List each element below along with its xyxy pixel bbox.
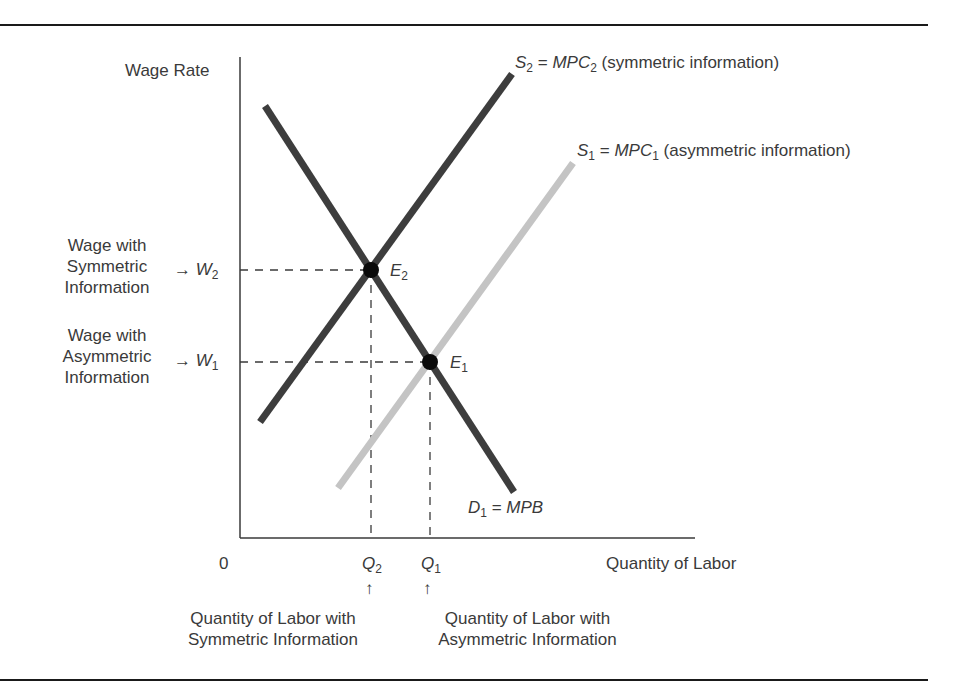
- origin-label: 0: [219, 553, 228, 574]
- qty-asymmetric-annotation: Quantity of Labor with Asymmetric Inform…: [410, 608, 645, 650]
- wage-symmetric-annotation: Wage with Symmetric Information: [52, 235, 162, 298]
- e2-point: [363, 262, 379, 278]
- e1-label: E1: [450, 352, 468, 379]
- qty-symmetric-annotation: Quantity of Labor with Symmetric Informa…: [160, 608, 386, 650]
- arrow-right-icon: →: [174, 351, 191, 370]
- e2-label: E2: [390, 260, 408, 287]
- arrow-up-icon: ↑: [423, 578, 432, 599]
- wage-asymmetric-annotation: Wage with Asymmetric Information: [52, 325, 162, 388]
- w2-tick: → W2: [174, 259, 218, 286]
- s2-supply-curve: [260, 74, 512, 422]
- s1-label: S1 = MPC1 (asymmetric information): [577, 140, 851, 167]
- s1-supply-curve: [338, 163, 573, 488]
- x-axis-label: Quantity of Labor: [606, 553, 736, 574]
- e1-point: [422, 354, 438, 370]
- y-axis-label: Wage Rate: [125, 60, 209, 81]
- w1-tick: → W1: [174, 350, 218, 377]
- q2-tick: Q2: [362, 553, 382, 580]
- s2-label: S2 = MPC2 (symmetric information): [515, 52, 779, 79]
- q1-tick: Q1: [421, 553, 441, 580]
- arrow-up-icon: ↑: [365, 578, 374, 599]
- arrow-right-icon: →: [174, 260, 191, 279]
- d1-label: D1 = MPB: [468, 497, 543, 524]
